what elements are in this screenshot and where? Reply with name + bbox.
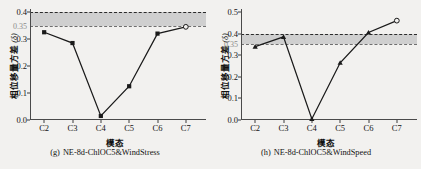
- series-line: [44, 27, 186, 116]
- x-axis-tick-mark: [368, 120, 369, 123]
- panel-h: 相位移量方差 (δ)0.00.10.20.30.40.50.35C2C3C4C5…: [211, 0, 421, 169]
- x-axis-tick-mark: [340, 120, 341, 123]
- panel-g: 相位移量方差 (δ)0.00.10.20.30.40.35C2C3C4C5C6C…: [0, 0, 210, 169]
- x-axis-tick-mark: [44, 120, 45, 123]
- panel-caption-tag: (h): [261, 148, 271, 157]
- panel-caption: (h)NE-8d-ChlOC5&WindSpeed: [211, 148, 421, 157]
- series-line: [255, 21, 397, 119]
- x-axis-tick-mark: [129, 120, 130, 123]
- panel-caption-text: NE-8d-ChlOC5&WindStress: [63, 148, 160, 157]
- panel-caption: (g)NE-8d-ChlOC5&WindStress: [0, 148, 210, 157]
- data-point-marker-open: [183, 24, 188, 29]
- x-axis-tick-mark: [185, 120, 186, 123]
- x-axis-tick-mark: [72, 120, 73, 123]
- data-point-marker: [42, 30, 46, 34]
- data-point-marker: [155, 32, 159, 36]
- figure-sheet: 相位移量方差 (δ)0.00.10.20.30.40.35C2C3C4C5C6C…: [0, 0, 421, 169]
- x-axis-tick-mark: [100, 120, 101, 123]
- data-point-marker: [309, 116, 314, 121]
- data-series: [241, 12, 411, 120]
- x-axis-tick-mark: [283, 120, 284, 123]
- x-axis-tick-mark: [157, 120, 158, 123]
- data-point-marker-open: [394, 18, 399, 23]
- plot-area: 0.00.10.20.30.40.35C2C3C4C5C6C7: [30, 12, 200, 120]
- data-series: [30, 12, 200, 120]
- data-point-marker: [99, 114, 103, 118]
- plot-area: 0.00.10.20.30.40.50.35C2C3C4C5C6C7: [241, 12, 411, 120]
- y-axis-label: 相位移量方差 (δ): [218, 7, 230, 125]
- panel-caption-tag: (g): [50, 148, 60, 157]
- x-axis-label: 模态: [241, 136, 411, 148]
- data-point-marker: [281, 34, 286, 39]
- panel-caption-text: NE-8d-ChlOC5&WindSpeed: [274, 148, 371, 157]
- y-axis-threshold-tick-label: 0.35: [224, 40, 241, 49]
- x-axis-tick-mark: [396, 120, 397, 123]
- y-axis-threshold-tick-label: 0.35: [13, 21, 30, 30]
- x-axis-label: 模态: [30, 136, 200, 148]
- data-point-marker: [127, 84, 131, 88]
- data-point-marker: [70, 41, 74, 45]
- x-axis-tick-mark: [255, 120, 256, 123]
